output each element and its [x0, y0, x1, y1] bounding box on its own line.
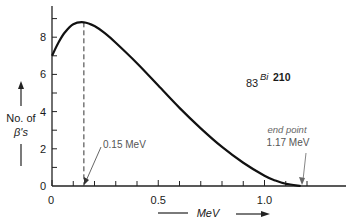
- endpoint-annotation: end point 1.17 MeV: [267, 124, 310, 185]
- peak-pointer-arrowhead: [84, 177, 89, 185]
- endpoint-label-line2: 1.17 MeV: [267, 137, 310, 148]
- y-axis-label: No. of β's: [6, 81, 36, 166]
- y-tick-label: 4: [40, 106, 46, 118]
- x-label-text: MeV: [197, 207, 221, 219]
- isotope-atomic-number: 83: [246, 77, 258, 89]
- endpoint-label-line1: end point: [267, 124, 306, 135]
- peak-label: 0.15 MeV: [103, 139, 146, 150]
- up-arrow-icon: [18, 81, 24, 89]
- spectrum-curve: [52, 22, 301, 186]
- y-tick-label: 2: [40, 143, 46, 155]
- y-ticks: 02468: [40, 19, 57, 192]
- y-tick-label: 0: [40, 180, 46, 192]
- x-ticks: 00.51.0: [48, 180, 307, 206]
- y-tick-label: 8: [40, 31, 46, 43]
- isotope-label: 83 Bi vicinity 210: [246, 71, 291, 89]
- y-tick-label: 6: [40, 68, 46, 80]
- y-label-line1: No. of: [6, 112, 36, 124]
- peak-annotation: 0.15 MeV: [84, 139, 146, 185]
- endpoint-pointer-line: [303, 153, 306, 180]
- y-label-line2: β's: [13, 126, 28, 138]
- peak-pointer-line: [86, 147, 101, 181]
- right-arrow-icon: [261, 211, 270, 217]
- beta-spectrum-chart: 00.51.0 02468 No. of β's MeV 83 Bi vicin…: [0, 0, 347, 223]
- endpoint-pointer-arrowhead: [299, 177, 305, 185]
- x-tick-label: 0: [48, 194, 54, 206]
- isotope-mass-number: 210: [273, 71, 291, 83]
- isotope-symbol: Bi: [260, 71, 269, 82]
- x-axis-label: MeV: [158, 207, 270, 219]
- x-tick-label: 1.0: [257, 194, 272, 206]
- x-tick-label: 0.5: [151, 194, 166, 206]
